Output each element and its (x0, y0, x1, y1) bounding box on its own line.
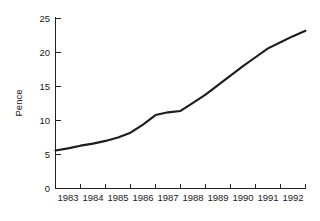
y-tick-label-5: 5 (45, 149, 50, 160)
x-tick-label-1985: 1985 (107, 192, 128, 203)
x-tick-label-1986: 1986 (132, 192, 153, 203)
y-tick-label-20: 20 (39, 47, 50, 58)
y-axis-group: 0 5 10 15 20 25 Pence (13, 13, 61, 194)
plot-area (56, 31, 306, 151)
x-tick-label-1989: 1989 (207, 192, 228, 203)
line-chart-figure: 0 5 10 15 20 25 Pence 1983 1984 1985 198… (0, 0, 320, 221)
x-tick-label-1990: 1990 (232, 192, 253, 203)
x-axis-group: 1983 1984 1985 1986 1987 1988 1989 1990 … (55, 184, 306, 204)
x-tick-label-1988: 1988 (182, 192, 203, 203)
y-tick-label-25: 25 (39, 13, 50, 24)
chart-canvas: 0 5 10 15 20 25 Pence 1983 1984 1985 198… (0, 0, 320, 221)
x-tick-label-1991: 1991 (257, 192, 278, 203)
y-tick-label-0: 0 (45, 183, 50, 194)
x-tick-label-1992: 1992 (282, 192, 303, 203)
x-tick-label-1984: 1984 (82, 192, 103, 203)
x-tick-label-1987: 1987 (157, 192, 178, 203)
y-axis-title: Pence (13, 90, 24, 117)
y-tick-label-10: 10 (39, 115, 50, 126)
y-tick-label-15: 15 (39, 81, 50, 92)
data-series-line (56, 31, 306, 151)
x-tick-label-1983: 1983 (57, 192, 78, 203)
